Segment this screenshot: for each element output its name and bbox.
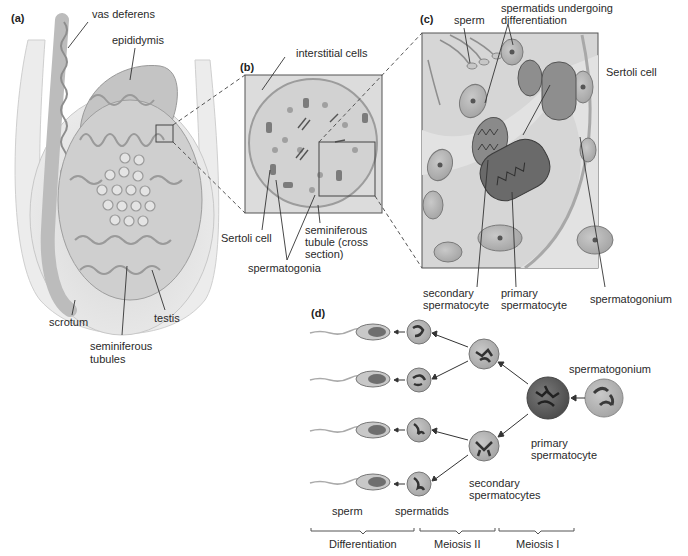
spermatogenesis-flow bbox=[310, 320, 623, 534]
panel-c-tag: (c) bbox=[420, 13, 433, 25]
label-spermatids-2: differentiation bbox=[501, 14, 567, 27]
label-sperm-d: sperm bbox=[332, 505, 363, 518]
panel-d-tag: (d) bbox=[311, 307, 325, 319]
label-secondary-spermatocyte-2: spermatocyte bbox=[423, 299, 489, 312]
label-spermatogonia: spermatogonia bbox=[248, 262, 321, 275]
label-vas-deferens: vas deferens bbox=[92, 8, 155, 21]
sperm-cells bbox=[310, 324, 390, 490]
testis-illustration bbox=[15, 20, 219, 335]
label-seminiferous-tubules-1: seminiferous bbox=[90, 340, 152, 353]
label-scrotum: scrotum bbox=[49, 316, 88, 329]
label-secondary-spermatocytes-2: spermatocytes bbox=[469, 489, 541, 502]
label-spermatogonium-c: spermatogonium bbox=[590, 293, 672, 306]
label-primary-spermatocyte-d-2: spermatocyte bbox=[531, 449, 597, 462]
label-epididymis: epididymis bbox=[112, 34, 164, 47]
label-sperm-c: sperm bbox=[454, 14, 485, 27]
label-seminiferous-tubules-2: tubules bbox=[90, 353, 125, 366]
panel-a-tag: (a) bbox=[11, 12, 24, 24]
label-spermatogonium-d: spermatogonium bbox=[569, 363, 651, 376]
diagram-artwork bbox=[0, 0, 688, 556]
label-primary-spermatocyte-2: spermatocyte bbox=[501, 299, 567, 312]
stage-differentiation: Differentiation bbox=[329, 538, 397, 551]
label-interstitial-cells: interstitial cells bbox=[296, 47, 368, 60]
label-spermatids-d: spermatids bbox=[395, 505, 449, 518]
label-sertoli-cell-b: Sertoli cell bbox=[221, 232, 272, 245]
label-seminiferous-tubule-3: section) bbox=[305, 248, 344, 261]
stage-braces bbox=[311, 528, 574, 534]
label-sertoli-cell-c: Sertoli cell bbox=[606, 66, 657, 79]
stage-meiosis-ii: Meiosis II bbox=[434, 538, 480, 551]
stage-meiosis-i: Meiosis I bbox=[516, 538, 559, 551]
panel-b-tag: (b) bbox=[240, 61, 254, 73]
label-testis: testis bbox=[154, 312, 180, 325]
tubule-cross-section bbox=[245, 75, 382, 213]
tubule-detail bbox=[422, 33, 613, 268]
